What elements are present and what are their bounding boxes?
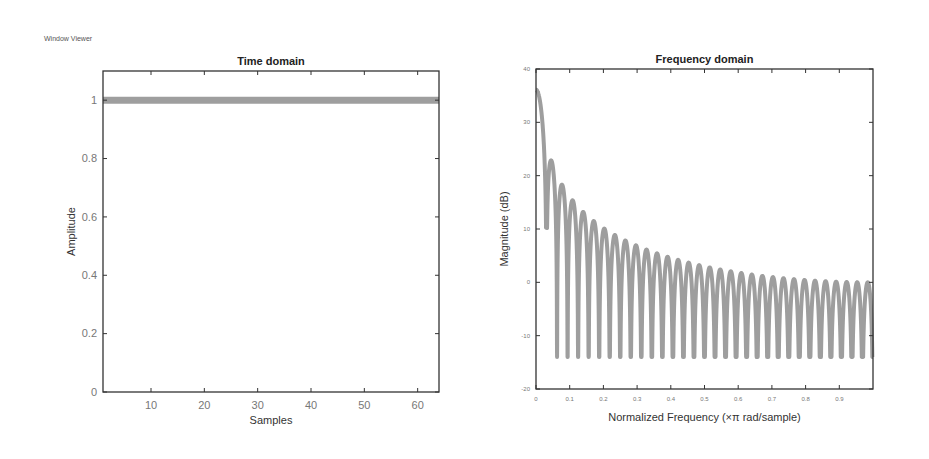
y-tick-label: 20 xyxy=(523,173,530,179)
y-tick-label: 0.4 xyxy=(82,269,97,281)
x-tick-label: 0.8 xyxy=(801,396,810,402)
y-tick-label: 0.8 xyxy=(82,152,97,164)
time-domain-chart: 10203040506000.20.40.60.81Time domainSam… xyxy=(65,55,439,426)
x-tick-label: 30 xyxy=(252,399,264,411)
plots-canvas: 10203040506000.20.40.60.81Time domainSam… xyxy=(0,0,929,459)
x-tick-label: 0.2 xyxy=(599,396,608,402)
x-tick-label: 0.9 xyxy=(835,396,844,402)
y-tick-label: 0.2 xyxy=(82,327,97,339)
x-tick-label: 0.1 xyxy=(566,396,575,402)
x-tick-label: 0.6 xyxy=(734,396,743,402)
x-tick-label: 40 xyxy=(305,399,317,411)
frequency-domain-series xyxy=(536,90,873,357)
x-tick-label: 20 xyxy=(198,399,210,411)
y-tick-label: 1 xyxy=(91,94,97,106)
chart-title: Time domain xyxy=(237,55,305,67)
axes-frame xyxy=(103,71,439,392)
y-tick-label: 0 xyxy=(527,279,531,285)
y-axis-label: Magnitude (dB) xyxy=(498,191,510,266)
frequency-domain-chart: 00.10.20.30.40.50.60.70.80.9-20-10010203… xyxy=(498,53,873,423)
y-tick-label: 10 xyxy=(523,226,530,232)
y-tick-label: 30 xyxy=(523,119,530,125)
x-tick-label: 10 xyxy=(145,399,157,411)
y-axis-label: Amplitude xyxy=(65,207,77,256)
y-tick-label: 0.6 xyxy=(82,211,97,223)
x-tick-label: 60 xyxy=(412,399,424,411)
x-tick-label: 0 xyxy=(534,396,538,402)
x-tick-label: 0.5 xyxy=(700,396,709,402)
x-tick-label: 0.3 xyxy=(633,396,642,402)
x-tick-label: 50 xyxy=(358,399,370,411)
y-tick-label: -20 xyxy=(521,386,530,392)
chart-title: Frequency domain xyxy=(656,53,754,65)
x-axis-label: Normalized Frequency (×π rad/sample) xyxy=(608,411,801,423)
x-tick-label: 0.4 xyxy=(667,396,676,402)
x-axis-label: Samples xyxy=(250,414,293,426)
x-tick-label: 0.7 xyxy=(768,396,777,402)
y-tick-label: 40 xyxy=(523,66,530,72)
y-tick-label: 0 xyxy=(91,386,97,398)
y-tick-label: -10 xyxy=(521,333,530,339)
